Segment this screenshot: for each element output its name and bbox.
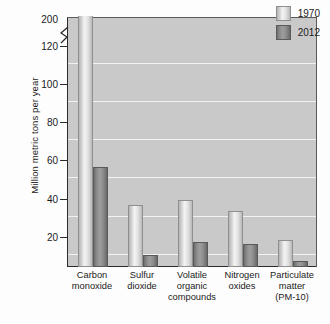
gridline-100 — [68, 101, 317, 102]
y-tick-mark-120 — [60, 46, 68, 47]
y-tick-label-120: 120 — [18, 41, 58, 52]
gridline-80 — [68, 139, 317, 140]
legend-label-1970: 1970 — [298, 8, 320, 19]
y-tick-mark-100 — [60, 84, 68, 85]
bar-chart: Million metric tons per year 200 120 100… — [0, 0, 330, 324]
legend-item-2012: 2012 — [276, 25, 320, 40]
x-axis-label-3: Volatileorganiccompounds — [167, 270, 217, 304]
gridline-40 — [68, 216, 317, 217]
legend-swatch-2012-icon — [276, 25, 291, 40]
y-tick-mark-80 — [60, 122, 68, 123]
gridline-60 — [68, 177, 317, 178]
x-axis-label-2: Sulfurdioxide — [117, 270, 167, 304]
legend: 1970 2012 — [276, 6, 320, 40]
y-tick-mark-60 — [60, 160, 68, 161]
x-axis-category-labels: CarbonmonoxideSulfurdioxideVolatileorgan… — [67, 270, 317, 304]
x-axis-label-4: Nitrogenoxides — [217, 270, 267, 304]
y-tick-label-200: 200 — [18, 14, 58, 25]
gridline-20 — [68, 254, 317, 255]
axis-break-icon — [60, 26, 72, 45]
x-axis-label-5: Particulatematter(PM-10) — [267, 270, 317, 304]
y-tick-mark-20 — [60, 237, 68, 238]
legend-label-2012: 2012 — [298, 27, 320, 38]
x-axis-label-1: Carbonmonoxide — [67, 270, 117, 304]
y-tick-label-40: 40 — [18, 194, 58, 205]
legend-swatch-1970-icon — [276, 6, 291, 21]
y-tick-label-60: 60 — [18, 155, 58, 166]
gridline-120 — [68, 63, 317, 64]
legend-item-1970: 1970 — [276, 6, 320, 21]
y-tick-label-100: 100 — [18, 79, 58, 90]
y-tick-mark-40 — [60, 199, 68, 200]
y-tick-label-20: 20 — [18, 232, 58, 243]
plot-area — [67, 17, 317, 267]
y-tick-label-80: 80 — [18, 117, 58, 128]
